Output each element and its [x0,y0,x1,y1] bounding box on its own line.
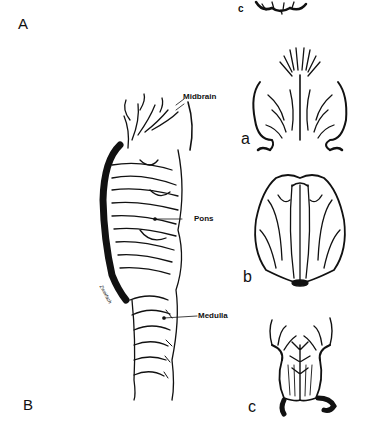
figure-b-drawing [255,175,345,286]
sublabel-c: c [248,398,256,416]
top-c-drawing [256,2,306,14]
panel-label-a: A [18,15,28,32]
illustration-canvas [0,0,391,426]
label-midbrain: Midbrain [183,92,216,101]
sublabel-b: b [243,268,252,286]
label-medulla: Medulla [198,311,228,320]
panel-label-b: B [23,396,33,413]
label-pons: Pons [194,214,214,223]
top-sublabel-c: c [238,3,244,14]
figure-c-drawing [270,318,334,414]
sublabel-a: a [241,130,250,148]
brainstem-drawing [103,94,197,400]
figure-a-drawing [253,48,346,150]
